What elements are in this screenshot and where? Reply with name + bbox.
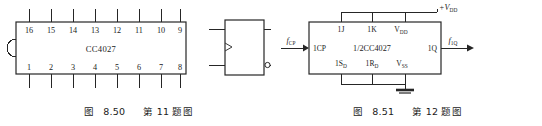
figure-8-50-caption: 图8.50第 11 题图 (3, 104, 274, 118)
figure-8-50: 16 15 14 13 12 11 10 9 1 2 3 4 5 6 7 8 (0, 0, 271, 126)
pin-label-vss: VSS (396, 59, 407, 69)
caption-suffix: 第 11 题图 (143, 106, 193, 117)
bottom-pin-stubs (341, 74, 405, 90)
dip-top-pin-leads (29, 9, 180, 22)
caption-number: 8.51 (372, 106, 394, 117)
pin-label-1rd: 1RD (366, 59, 379, 69)
input-signal-label: fCP (287, 36, 296, 46)
figure-page: 16 15 14 13 12 11 10 9 1 2 3 4 5 6 7 8 (0, 0, 542, 126)
chip-part-label: CC4027 (86, 44, 117, 54)
pin-number: 4 (93, 63, 97, 72)
inverting-bubble-icon (265, 62, 270, 67)
pin-number: 11 (135, 26, 143, 35)
pin-label-1cp: 1CP (313, 44, 326, 53)
pin-number: 5 (115, 63, 119, 72)
pin-number: 7 (159, 63, 163, 72)
caption-suffix: 第 12 题图 (412, 106, 462, 117)
top-pin-stubs (341, 9, 437, 22)
pin-number: 1 (27, 63, 31, 72)
pin-number: 12 (113, 26, 121, 35)
pin-label-1j: 1J (338, 25, 345, 34)
q-output-group: 1Q f1Q (428, 36, 474, 53)
dip-notch-icon (7, 39, 16, 57)
caption-prefix: 图 (353, 106, 363, 117)
supply-label-sub: DD (450, 7, 458, 13)
pin-number: 10 (157, 26, 165, 35)
pin-label-1k: 1K (367, 25, 377, 34)
input-arrowhead-icon (303, 44, 309, 51)
pin-number: 2 (49, 63, 53, 72)
figure-8-50-drawing: 16 15 14 13 12 11 10 9 1 2 3 4 5 6 7 8 (0, 0, 271, 104)
pin-number: 14 (69, 26, 77, 35)
output-arrowhead-icon (467, 44, 474, 51)
dip-bottom-pin-leads (29, 74, 180, 88)
top-inner-labels: 1J 1K VDD (338, 25, 408, 35)
pin-number: 6 (137, 63, 141, 72)
figure-8-51: +VDD 1J 1K VDD 1SD 1RD VSS (271, 0, 542, 126)
figure-8-51-caption: 图8.51第 12 题图 (272, 104, 542, 118)
pin-number: 9 (178, 26, 182, 35)
flip-flop-logic-symbol (209, 20, 271, 75)
clock-triangle-icon (225, 43, 232, 51)
caption-number: 8.50 (103, 106, 125, 117)
bottom-inner-labels: 1SD 1RD VSS (335, 59, 408, 69)
figure-8-51-drawing: +VDD 1J 1K VDD 1SD 1RD VSS (271, 0, 542, 104)
dip-bottom-pin-numbers: 1 2 3 4 5 6 7 8 (27, 63, 182, 72)
clock-input-group: fCP 1CP (281, 36, 326, 53)
caption-prefix: 图 (84, 106, 94, 117)
output-signal-label: f1Q (449, 36, 458, 46)
pin-label-1q: 1Q (428, 44, 438, 53)
pin-label-vdd: VDD (394, 25, 407, 35)
pin-number: 3 (71, 63, 75, 72)
pin-number: 13 (91, 26, 99, 35)
block-center-label: 1/2CC4027 (353, 44, 391, 53)
ground-icon (396, 90, 414, 93)
pin-number: 16 (25, 26, 33, 35)
dip-top-pin-numbers: 16 15 14 13 12 11 10 9 (25, 26, 182, 35)
pin-number: 15 (47, 26, 55, 35)
supply-label: +VDD (439, 3, 457, 13)
pin-label-1sd: 1SD (335, 59, 347, 69)
pin-number: 8 (178, 63, 182, 72)
